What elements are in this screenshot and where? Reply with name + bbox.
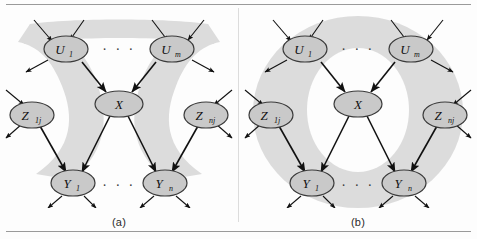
node-u1-label: U (294, 42, 305, 57)
caption-b: (b) (239, 216, 477, 228)
node-yn-sub: n (169, 184, 173, 193)
node-z1j-label: Z (21, 108, 29, 123)
node-z1j[interactable]: Z 1j (10, 102, 54, 128)
node-u1[interactable]: U 1 (44, 36, 88, 62)
node-um-sub: m (414, 50, 420, 59)
node-z1j[interactable]: Z 1j (249, 102, 293, 128)
node-x-label: X (353, 97, 363, 112)
node-y1-sub: 1 (315, 184, 319, 193)
node-znj-sub: nj (209, 116, 216, 125)
node-znj[interactable]: Z nj (423, 102, 467, 128)
node-znj-sub: nj (448, 116, 455, 125)
node-y1[interactable]: Y 1 (290, 170, 334, 196)
node-yn[interactable]: Y n (143, 170, 187, 196)
node-um[interactable]: U m (150, 36, 194, 62)
panel-b-graph: U 1 U m X Z 1j (239, 8, 477, 208)
node-z1j-sub: 1j (274, 116, 281, 125)
node-znj-label: Z (195, 108, 203, 123)
node-u1-sub: 1 (69, 50, 73, 59)
panel-b: U 1 U m X Z 1j (239, 8, 477, 230)
node-znj-label: Z (434, 108, 442, 123)
node-um-label: U (161, 42, 172, 57)
node-y1[interactable]: Y 1 (51, 170, 95, 196)
node-u1[interactable]: U 1 (283, 36, 327, 62)
node-z1j-sub: 1j (35, 116, 42, 125)
top-rule (6, 4, 471, 5)
node-yn[interactable]: Y n (382, 170, 426, 196)
node-x[interactable]: X (95, 91, 143, 117)
bottom-rule (6, 231, 471, 232)
node-u1-sub: 1 (308, 50, 312, 59)
ellipsis-bottom-a: · · · (102, 178, 136, 193)
panel-a: U 1 U m X Z 1j (0, 8, 238, 230)
node-u1-label: U (55, 42, 66, 57)
node-y1-sub: 1 (76, 184, 80, 193)
figure-container: U 1 U m X Z 1j (0, 0, 477, 239)
node-um-sub: m (175, 50, 181, 59)
node-znj[interactable]: Z nj (184, 102, 228, 128)
node-x[interactable]: X (334, 91, 382, 117)
node-yn-sub: n (408, 184, 412, 193)
ellipsis-bottom-b: · · · (341, 178, 375, 193)
node-um-label: U (400, 42, 411, 57)
panel-a-graph: U 1 U m X Z 1j (0, 8, 238, 208)
ellipsis-top-a: · · · (102, 42, 136, 57)
node-um[interactable]: U m (389, 36, 433, 62)
ellipsis-top-b: · · · (341, 42, 375, 57)
node-x-label: X (114, 97, 124, 112)
node-z1j-label: Z (260, 108, 268, 123)
caption-a: (a) (0, 216, 238, 228)
